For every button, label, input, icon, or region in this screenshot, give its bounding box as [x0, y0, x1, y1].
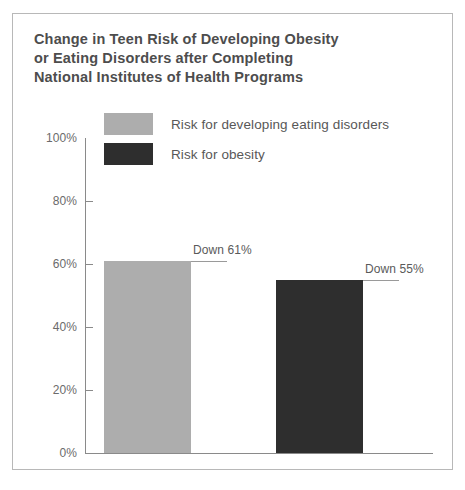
- tick-mark-60: [86, 264, 93, 265]
- x-axis-line: [85, 453, 433, 454]
- tick-mark-40: [86, 327, 93, 328]
- plot-area: 100% 80% 60% 40% 20% 0% Down 61% Down 55…: [13, 14, 454, 471]
- callout-leader-line-obesity: [363, 280, 399, 281]
- tick-mark-20: [86, 390, 93, 391]
- y-axis-line: [85, 138, 86, 454]
- ytick-label-40: 40%: [19, 320, 77, 334]
- ytick-label-80: 80%: [19, 194, 77, 208]
- bar-label-eating-disorders: Down 61%: [193, 243, 252, 257]
- ytick-label-100: 100%: [19, 131, 77, 145]
- ytick-label-60: 60%: [19, 257, 77, 271]
- bar-obesity: [276, 280, 363, 453]
- tick-mark-80: [86, 201, 93, 202]
- bar-label-obesity: Down 55%: [365, 262, 424, 276]
- chart-card: Change in Teen Risk of Developing Obesit…: [12, 13, 453, 470]
- ytick-label-20: 20%: [19, 383, 77, 397]
- callout-leader-line-eating-disorders: [191, 261, 227, 262]
- bar-eating-disorders: [104, 261, 191, 453]
- ytick-label-0: 0%: [19, 446, 77, 460]
